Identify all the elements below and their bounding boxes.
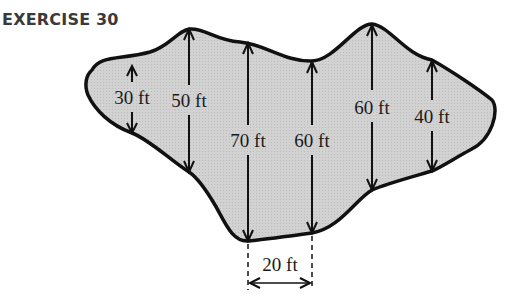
measurement-label: 40 ft [414,106,450,127]
measurement-label: 60 ft [354,97,390,118]
measurement-label: 70 ft [230,130,266,151]
spacing-label: 20 ft [262,254,298,275]
land-diagram: 30 ft 50 ft 70 ft 60 ft 60 ft 40 ft 20 f… [0,0,509,299]
measurement-label: 30 ft [114,87,150,108]
land-region [86,24,495,241]
measurement-label: 50 ft [171,90,207,111]
measurement-label: 60 ft [294,130,330,151]
